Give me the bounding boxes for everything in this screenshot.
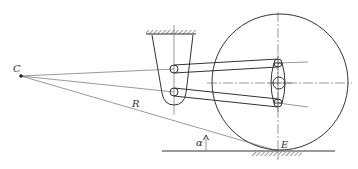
lower-arm-axis-extension <box>278 103 308 107</box>
label-C: C <box>13 63 21 74</box>
upper-arm-bottom-edge <box>174 67 278 73</box>
label-R: R <box>131 98 140 109</box>
lower-arm-extension-line <box>21 76 174 92</box>
upper-arm-axis-extension <box>278 62 308 63</box>
frame-ground-hatch <box>146 30 196 34</box>
suspension-diagram: C R α E <box>0 0 358 169</box>
instant-center-point <box>19 74 23 78</box>
label-E: E <box>280 139 289 150</box>
diagram-canvas: C R α E <box>0 0 358 169</box>
radius-line-R <box>21 76 278 151</box>
label-alpha: α <box>196 137 203 148</box>
wheel-circle <box>212 14 348 150</box>
upper-arm-extension-line <box>21 69 174 76</box>
contact-ground-hatch <box>252 152 302 156</box>
